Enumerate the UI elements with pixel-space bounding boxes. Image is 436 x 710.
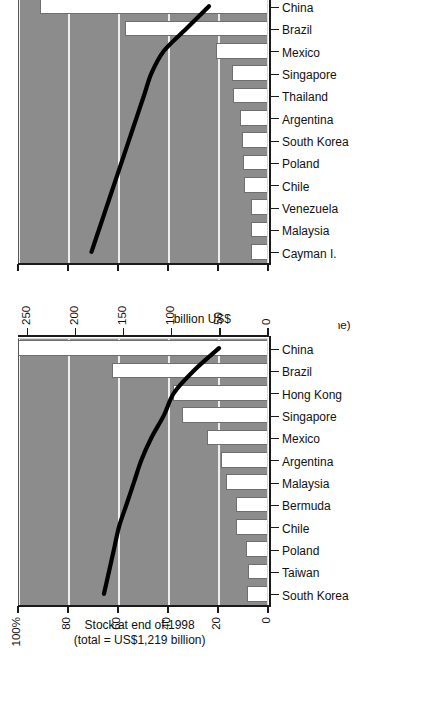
left-axis-tick [117,606,118,613]
left-axis-tick [117,264,118,271]
left-axis-tick [267,606,268,613]
category-tick [271,163,279,164]
category-tick [271,594,279,595]
category-tick [271,416,279,417]
right-axis-unit-label: billion US$ [142,312,262,327]
category-tick [271,29,279,30]
left-axis-tick [167,264,168,271]
cumulative-share-line [19,338,268,605]
right-axis-tick [267,328,268,335]
chart-title-line1: Stock at end of 1998 [15,618,265,633]
category-axis-line [269,0,271,265]
right-axis-tick-label: 0 [261,319,273,325]
category-label: Thailand [282,92,328,104]
category-label: Poland [282,159,319,171]
category-tick [271,393,279,394]
category-label: Chile [282,523,309,535]
right-axis-tick [219,328,220,335]
plot-area [18,338,268,606]
category-label: Malaysia [282,226,329,238]
category-label: South Korea [282,136,349,148]
right-axis-tick-label: 150 [117,306,129,325]
category-tick [271,118,279,119]
category-label: Brazil [282,25,312,37]
right-axis-tick [75,328,76,335]
category-tick [271,438,279,439]
category-tick [271,505,279,506]
category-label: Brazil [282,367,312,379]
category-label: China [282,344,313,356]
right-axis-tick-label: 200 [69,306,81,325]
category-tick [271,96,279,97]
category-label: Chile [282,181,309,193]
category-tick [271,141,279,142]
category-tick [271,208,279,209]
left-axis-tick [267,264,268,271]
category-tick [271,51,279,52]
category-tick [271,550,279,551]
category-tick [271,460,279,461]
category-label: South Korea [282,590,349,602]
category-tick [271,7,279,8]
chart-title-line2: (total = US$1,219 billion) [15,633,265,648]
left-axis-tick [67,606,68,613]
category-label: Malaysia [282,478,329,490]
category-label: China [282,2,313,14]
chart-title: Stock at end of 1998(total = US$1,219 bi… [15,618,265,647]
category-label: Argentina [282,114,333,126]
plot-area [18,0,268,264]
left-axis-tick [67,264,68,271]
category-label: Mexico [282,47,320,59]
category-label: Singapore [282,411,337,423]
left-axis-line [18,263,269,265]
category-label: Mexico [282,434,320,446]
category-label: Hong Kong [282,389,342,401]
category-tick [271,252,279,253]
category-label: Poland [282,545,319,557]
chart-stock-end-1998: 020406080100%050100150200250South KoreaT… [8,272,338,692]
left-axis-tick [217,264,218,271]
right-axis-tick [123,328,124,335]
category-label: Bermuda [282,501,331,513]
left-axis-tick [17,264,18,271]
category-tick [271,527,279,528]
right-axis-tick [27,328,28,335]
category-tick [271,185,279,186]
category-label: Singapore [282,69,337,81]
category-tick [271,371,279,372]
chart-page: 020406080100 %01020304050Cayman I.Malays… [0,0,436,710]
category-axis-line [269,336,271,607]
category-tick [271,483,279,484]
category-label: Argentina [282,456,333,468]
chart-panel-stock-end-1998: 020406080100%050100150200250South KoreaT… [0,362,436,692]
category-tick [271,349,279,350]
right-axis-tick-label: 250 [21,306,33,325]
left-axis-tick [17,606,18,613]
right-axis-tick [171,328,172,335]
left-axis-line [18,605,269,607]
chart-rotation-container: 020406080100%050100150200250South KoreaT… [8,272,338,692]
category-label: Taiwan [282,568,319,580]
category-label: Venezuela [282,203,338,215]
category-tick [271,572,279,573]
left-axis-tick [167,606,168,613]
category-tick [271,74,279,75]
cumulative-share-line [19,0,268,263]
category-tick [271,230,279,231]
category-label: Cayman I. [282,248,337,260]
left-axis-tick [217,606,218,613]
right-axis-line [18,335,269,337]
